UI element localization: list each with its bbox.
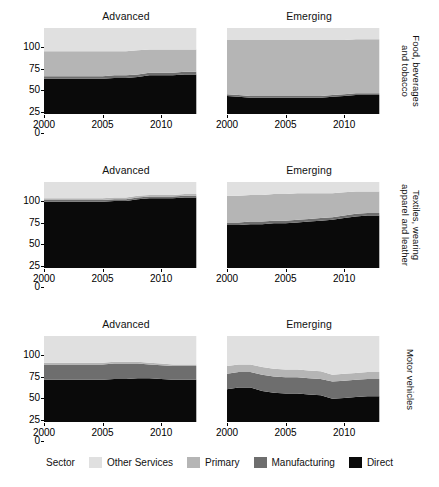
legend-title: Sector (46, 457, 75, 468)
facet-strip-text: Motor vehicles (406, 348, 417, 409)
facet-strip-text: Textiles, wearingapparel and leather (400, 184, 422, 266)
x-tick-mark (286, 423, 287, 426)
area-primary (227, 39, 379, 96)
x-tick-label: 2005 (274, 427, 296, 438)
legend-item-direct[interactable]: Direct (349, 457, 393, 468)
legend-label: Manufacturing (272, 457, 335, 468)
x-tick-label: 2005 (91, 119, 113, 130)
area-direct (44, 378, 196, 422)
area-direct (227, 95, 379, 114)
facet-row: AdvancedEmerging025507510020002005201020… (0, 164, 439, 294)
y-tick-mark (41, 133, 44, 134)
legend-swatch-primary (187, 457, 200, 468)
x-tick-mark (344, 115, 345, 118)
facet-strip-label: Food, beveragesand tobacco (398, 28, 424, 114)
x-tick-mark (103, 423, 104, 426)
x-tick-mark (227, 115, 228, 118)
x-tick-label: 2005 (274, 273, 296, 284)
panel-title-advanced: Advanced (44, 10, 208, 22)
plot-panel (44, 182, 208, 268)
y-tick-label: 25 (29, 261, 40, 271)
legend-swatch-manufacturing (254, 457, 267, 468)
y-tick-label: 50 (29, 393, 40, 403)
plot-panel (227, 336, 391, 422)
x-tick-mark (44, 269, 45, 272)
x-tick-mark (103, 115, 104, 118)
area-direct (44, 74, 196, 114)
plot-panel (44, 28, 208, 114)
y-tick-label: 50 (29, 85, 40, 95)
y-tick-label: 25 (29, 415, 40, 425)
x-tick-label: 2000 (216, 273, 238, 284)
facet-strip-label: Textiles, wearingapparel and leather (398, 182, 424, 268)
x-tick-mark (227, 269, 228, 272)
area-other-services (44, 336, 196, 364)
x-tick-label: 2005 (91, 273, 113, 284)
panel-title-advanced: Advanced (44, 164, 208, 176)
legend-item-other-services[interactable]: Other Services (89, 457, 173, 468)
chart-legend: SectorOther ServicesPrimaryManufacturing… (0, 452, 439, 472)
x-tick-mark (227, 423, 228, 426)
x-tick-label: 2010 (150, 119, 172, 130)
x-tick-label: 2010 (333, 427, 355, 438)
y-axis: 0255075100 (6, 28, 40, 114)
plot-panel (44, 336, 208, 422)
x-tick-mark (286, 115, 287, 118)
y-tick-label: 75 (29, 64, 40, 74)
x-tick-label: 2000 (216, 427, 238, 438)
x-tick-mark (344, 269, 345, 272)
y-tick-mark (41, 287, 44, 288)
area-other-services (44, 28, 196, 51)
panel-title-emerging: Emerging (227, 164, 391, 176)
x-tick-label: 2010 (150, 273, 172, 284)
panel-title-advanced: Advanced (44, 318, 208, 330)
panel-title-emerging: Emerging (227, 10, 391, 22)
legend-label: Other Services (107, 457, 173, 468)
legend-label: Direct (367, 457, 393, 468)
facet-row: AdvancedEmerging025507510020002005201020… (0, 318, 439, 448)
x-tick-label: 2010 (333, 119, 355, 130)
x-tick-label: 2000 (33, 427, 55, 438)
x-tick-label: 2005 (274, 119, 296, 130)
plot-panel (227, 182, 391, 268)
legend-item-primary[interactable]: Primary (187, 457, 239, 468)
x-tick-label: 2000 (216, 119, 238, 130)
x-tick-mark (161, 423, 162, 426)
x-tick-label: 2000 (33, 119, 55, 130)
y-tick-label: 100 (23, 42, 40, 52)
faceted-area-chart-figure: AdvancedEmerging025507510020002005201020… (0, 0, 439, 487)
y-tick-label: 25 (29, 107, 40, 117)
area-direct (44, 197, 196, 268)
legend-item-manufacturing[interactable]: Manufacturing (254, 457, 335, 468)
x-tick-mark (44, 115, 45, 118)
x-tick-label: 2005 (91, 427, 113, 438)
y-tick-label: 100 (23, 350, 40, 360)
x-tick-mark (344, 423, 345, 426)
legend-swatch-direct (349, 457, 362, 468)
area-other-services (227, 28, 379, 40)
y-tick-label: 50 (29, 239, 40, 249)
y-tick-label: 100 (23, 196, 40, 206)
y-tick-label: 75 (29, 372, 40, 382)
x-tick-mark (103, 269, 104, 272)
plot-panel (227, 28, 391, 114)
legend-swatch-other-services (89, 457, 102, 468)
legend-label: Primary (205, 457, 239, 468)
panel-title-emerging: Emerging (227, 318, 391, 330)
x-tick-mark (286, 269, 287, 272)
x-tick-mark (44, 423, 45, 426)
facet-strip-label: Motor vehicles (398, 336, 424, 422)
facet-row: AdvancedEmerging025507510020002005201020… (0, 10, 439, 140)
x-tick-label: 2010 (150, 427, 172, 438)
y-tick-mark (41, 441, 44, 442)
facet-strip-text: Food, beveragesand tobacco (400, 35, 422, 106)
y-tick-label: 75 (29, 218, 40, 228)
x-tick-label: 2000 (33, 273, 55, 284)
y-axis: 0255075100 (6, 336, 40, 422)
x-tick-mark (161, 269, 162, 272)
x-tick-mark (161, 115, 162, 118)
area-primary (44, 50, 196, 77)
y-axis: 0255075100 (6, 182, 40, 268)
x-tick-label: 2010 (333, 273, 355, 284)
